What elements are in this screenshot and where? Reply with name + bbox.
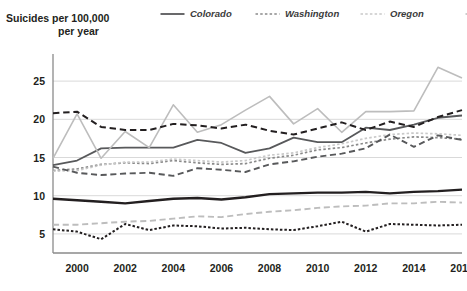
x-tick-label: 2010 [306,262,330,274]
y-tick-label: 25 [33,75,45,87]
chart-plot-area: 5101520252000200220042006200820102012201… [0,0,467,291]
x-tick-label: 2006 [210,262,234,274]
x-tick-label: 2000 [65,262,89,274]
suicide-rate-line-chart: Suicides per 100,000 per year ColoradoWa… [0,0,467,291]
series-line-massachusetts [53,202,462,225]
x-tick-label: 2014 [402,262,426,274]
series-line-dc [53,222,462,240]
series-line-washington [53,137,462,171]
y-tick-label: 20 [33,113,45,125]
series-line-california [53,190,462,204]
chart-svg: 5101520252000200220042006200820102012201… [0,0,467,291]
x-tick-label: 2012 [354,262,378,274]
x-tick-label: 2004 [162,262,186,274]
series-line-oregon [53,133,462,171]
series-line-maine [53,135,462,176]
y-tick-label: 5 [39,228,45,240]
x-tick-label: 2002 [113,262,137,274]
y-tick-label: 10 [33,190,45,202]
x-tick-label: 2008 [258,262,282,274]
x-tick-label: 2016 [450,262,467,274]
y-tick-label: 15 [33,152,45,164]
series-line-nevada [53,110,462,134]
